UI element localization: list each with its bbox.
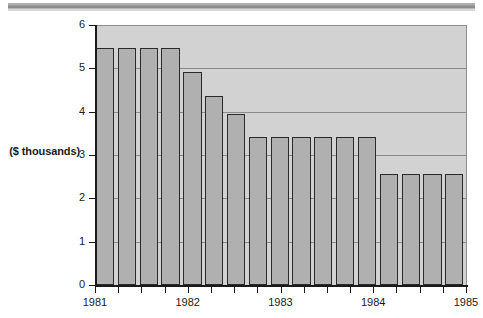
x-axis-line [95, 285, 468, 287]
bar [249, 137, 267, 285]
bar [423, 174, 441, 285]
bar [205, 96, 223, 285]
plot-area [96, 25, 467, 285]
x-axis-tick [443, 287, 444, 293]
y-axis-tick-label: 6 [59, 18, 85, 30]
bar [161, 48, 179, 285]
x-axis-tick [257, 287, 258, 293]
y-axis-tick-label: 4 [59, 105, 85, 117]
bar [445, 174, 463, 285]
bar [292, 137, 310, 285]
y-axis-tick [89, 155, 95, 156]
x-axis-tick [95, 287, 96, 293]
bar [358, 137, 376, 285]
x-axis-tick-label: 1981 [73, 296, 117, 308]
y-axis-tick [89, 68, 95, 69]
x-axis-tick [396, 287, 397, 293]
y-axis-tick-label: 1 [59, 235, 85, 247]
y-axis-tick-label: 0 [59, 278, 85, 290]
bar-series [96, 25, 467, 285]
x-axis-tick-label: 1983 [259, 296, 303, 308]
y-axis-line [95, 25, 97, 286]
x-axis-tick-label: 1982 [166, 296, 210, 308]
bar [183, 72, 201, 285]
y-axis-tick [89, 198, 95, 199]
bar [96, 48, 114, 285]
bar [336, 137, 354, 285]
bar [271, 137, 289, 285]
x-axis-tick [373, 287, 374, 293]
y-axis-tick-label: 5 [59, 61, 85, 73]
x-axis-tick-label: 1985 [444, 296, 483, 308]
y-axis-tick [89, 112, 95, 113]
x-axis-tick [420, 287, 421, 293]
x-axis-tick [141, 287, 142, 293]
x-axis-tick [466, 287, 467, 293]
x-axis-tick-label: 1984 [351, 296, 395, 308]
x-axis-tick [188, 287, 189, 293]
x-axis-tick [304, 287, 305, 293]
y-axis-tick [89, 242, 95, 243]
bar [380, 174, 398, 285]
bar [118, 48, 136, 285]
x-axis-tick [211, 287, 212, 293]
x-axis-tick [281, 287, 282, 293]
x-axis-tick [327, 287, 328, 293]
x-axis-tick [165, 287, 166, 293]
x-axis-tick [350, 287, 351, 293]
y-axis-tick-label: 3 [59, 148, 85, 160]
bar [402, 174, 420, 285]
y-axis-tick-label: 2 [59, 191, 85, 203]
x-axis-tick [234, 287, 235, 293]
bar [227, 114, 245, 285]
x-axis-tick [118, 287, 119, 293]
bar [314, 137, 332, 285]
top-rule-shadow [8, 9, 475, 11]
y-axis-tick [89, 25, 95, 26]
bar [140, 48, 158, 285]
